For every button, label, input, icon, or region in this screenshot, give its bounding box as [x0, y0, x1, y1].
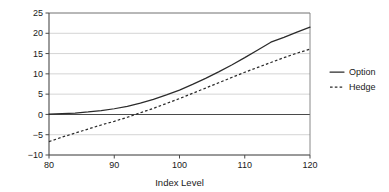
x-tick-label: 80 — [44, 160, 54, 170]
y-tick-label: 0 — [38, 110, 43, 120]
line-chart: 8090100110120 −10−50510152025 Index Leve… — [0, 0, 389, 192]
y-tick-label: 10 — [33, 69, 43, 79]
x-tick-label: 100 — [172, 160, 187, 170]
y-tick-label: 25 — [33, 8, 43, 18]
y-tick-label: 15 — [33, 49, 43, 59]
x-tick-label: 110 — [238, 160, 252, 170]
legend-label-option: Option — [349, 67, 376, 77]
y-tick-label: −10 — [28, 150, 43, 160]
chart-background — [0, 0, 389, 192]
x-tick-label: 90 — [109, 160, 119, 170]
y-tick-label: 20 — [33, 28, 43, 38]
chart-container: 8090100110120 −10−50510152025 Index Leve… — [0, 0, 389, 192]
legend-label-hedge: Hedge — [349, 82, 376, 92]
x-tick-label: 120 — [302, 160, 317, 170]
y-tick-label: 5 — [38, 89, 43, 99]
y-tick-label: −5 — [33, 130, 43, 140]
x-axis-title: Index Level — [155, 177, 204, 188]
